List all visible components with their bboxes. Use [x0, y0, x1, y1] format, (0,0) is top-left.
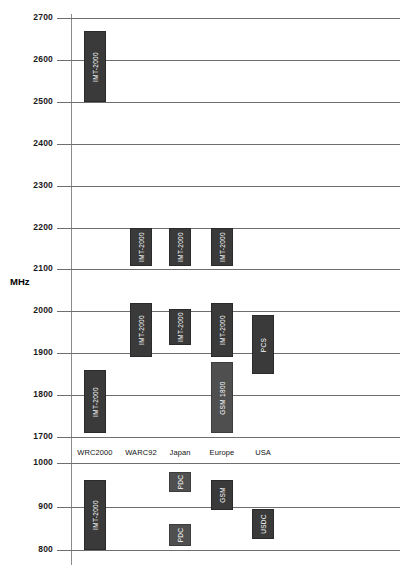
band-bar-japan-pdc: PDC: [169, 524, 191, 546]
band-bar-label: IMT-2000: [219, 232, 226, 262]
gridline: [70, 269, 400, 270]
band-bar-wrc2000-imt-2000: IMT-2000: [84, 31, 106, 102]
band-bar-europe-gsm: GSM: [211, 480, 233, 510]
axis-tick: [57, 437, 73, 438]
band-bar-warc92-imt-2000: IMT-2000: [130, 228, 152, 266]
axis-tick: [57, 550, 73, 551]
band-bar-label: IMT-2000: [92, 387, 99, 417]
gridline: [70, 18, 400, 19]
axis-tick-label: 1000: [8, 457, 53, 467]
axis-tick-label: 800: [8, 544, 53, 554]
band-bar-usa-pcs: PCS: [252, 315, 274, 374]
band-bar-usa-usdc: USDC: [252, 509, 274, 539]
band-bar-label: GSM 1800: [219, 381, 226, 414]
axis-tick: [57, 311, 73, 312]
band-bar-warc92-imt-2000: IMT-2000: [130, 303, 152, 357]
gridline: [70, 550, 400, 551]
gridline: [70, 228, 400, 229]
axis-tick: [57, 102, 73, 103]
axis-tick: [57, 18, 73, 19]
gridline: [70, 395, 400, 396]
band-bar-label: IMT-2000: [177, 312, 184, 342]
band-bar-label: IMT-2000: [92, 52, 99, 82]
gridline: [70, 144, 400, 145]
gridline: [70, 60, 400, 61]
axis-tick-label: 2200: [8, 222, 53, 232]
axis-tick: [57, 269, 73, 270]
band-bar-label: PDC: [177, 475, 184, 490]
axis-tick-label: 2100: [8, 263, 53, 273]
axis-tick-label: 2500: [8, 96, 53, 106]
band-bar-europe-imt-2000: IMT-2000: [211, 228, 233, 266]
band-bar-label: GSM: [219, 487, 226, 503]
column-label-usa: USA: [223, 448, 303, 457]
y-axis-line: [71, 14, 72, 565]
axis-tick-label: 2000: [8, 305, 53, 315]
axis-tick-label: 1900: [8, 347, 53, 357]
axis-tick: [57, 463, 73, 464]
axis-tick-label: 900: [8, 501, 53, 511]
axis-tick-label: 1800: [8, 389, 53, 399]
gridline: [70, 186, 400, 187]
gridline: [70, 437, 400, 438]
band-bar-label: IMT-2000: [177, 232, 184, 262]
band-bar-label: IMT-2000: [138, 315, 145, 345]
axis-tick-label: 2400: [8, 138, 53, 148]
axis-tick: [57, 395, 73, 396]
axis-tick-label: 2600: [8, 54, 53, 64]
gridline: [70, 463, 400, 464]
axis-tick-label: 2700: [8, 12, 53, 22]
band-bar-label: PDC: [177, 528, 184, 543]
spectrum-allocation-chart: 1700180019002000210022002300240025002600…: [0, 0, 419, 583]
band-bar-label: USDC: [260, 514, 267, 534]
band-bar-europe-imt-2000: IMT-2000: [211, 303, 233, 357]
band-bar-wrc2000-imt-2000: IMT-2000: [84, 370, 106, 433]
band-bar-label: IMT-2000: [219, 315, 226, 345]
band-bar-europe-gsm-1800: GSM 1800: [211, 362, 233, 433]
axis-tick-label: 2300: [8, 180, 53, 190]
band-bar-label: IMT-2000: [92, 500, 99, 530]
gridline: [70, 353, 400, 354]
band-bar-label: IMT-2000: [138, 232, 145, 262]
gridline: [70, 507, 400, 508]
axis-tick: [57, 60, 73, 61]
band-bar-japan-imt-2000: IMT-2000: [169, 228, 191, 266]
band-bar-japan-imt-2000: IMT-2000: [169, 309, 191, 345]
y-axis-title: MHz: [10, 276, 30, 287]
axis-tick-label: 1700: [8, 431, 53, 441]
band-bar-label: PCS: [260, 337, 267, 351]
gridline: [70, 102, 400, 103]
axis-tick: [57, 353, 73, 354]
gridline: [70, 311, 400, 312]
axis-tick: [57, 507, 73, 508]
axis-tick: [57, 144, 73, 145]
axis-tick: [57, 186, 73, 187]
axis-tick: [57, 228, 73, 229]
band-bar-wrc2000-imt-2000: IMT-2000: [84, 480, 106, 550]
band-bar-japan-pdc: PDC: [169, 472, 191, 492]
